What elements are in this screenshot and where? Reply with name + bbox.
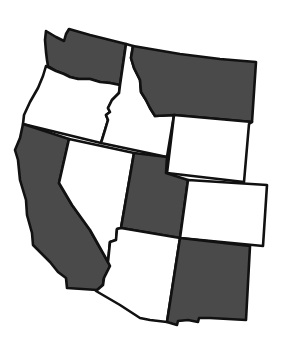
state-new-mexico: New Mexico — [167, 238, 250, 325]
western-us-map: Washington Oregon Idaho Montana Wyoming … — [0, 0, 285, 342]
state-colorado: Colorado — [180, 180, 267, 246]
state-wyoming: Wyoming — [167, 115, 252, 182]
